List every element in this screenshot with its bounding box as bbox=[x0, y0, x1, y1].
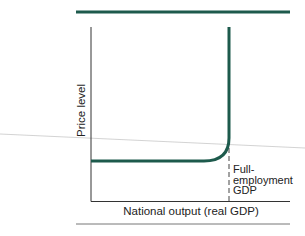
x-axis-label: National output (real GDP) bbox=[91, 205, 291, 217]
full-employment-annotation: Full- employment GDP bbox=[233, 164, 293, 196]
annotation-line-3: GDP bbox=[233, 185, 293, 196]
artifact-line bbox=[0, 134, 305, 148]
annotation-line-1: Full- bbox=[233, 164, 293, 175]
y-axis-label: Price level bbox=[75, 89, 87, 137]
chart-canvas bbox=[0, 0, 305, 236]
aggregate-supply-curve bbox=[91, 27, 229, 161]
